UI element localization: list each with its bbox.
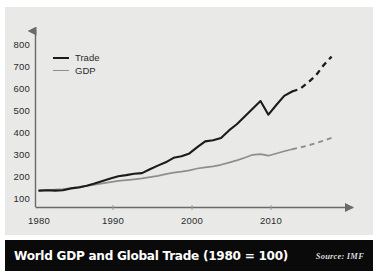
x-tick-label-2000: 2000 bbox=[175, 215, 209, 226]
legend-swatch-gdp-icon bbox=[53, 70, 69, 71]
y-tick-label-200: 200 bbox=[4, 171, 30, 182]
caption-bar: World GDP and Global Trade (1980 = 100) … bbox=[5, 240, 373, 271]
y-tick-label-400: 400 bbox=[4, 127, 30, 138]
series-line-trade bbox=[39, 92, 292, 191]
y-tick-label-600: 600 bbox=[4, 83, 30, 94]
y-tick-label-100: 100 bbox=[4, 193, 30, 204]
legend-item-trade: Trade bbox=[53, 51, 125, 64]
series-projection-gdp bbox=[292, 138, 332, 150]
chart-figure: 800 700 600 500 400 300 200 100 1980 199… bbox=[0, 0, 378, 278]
y-tick-label-500: 500 bbox=[4, 105, 30, 116]
legend-label-gdp: GDP bbox=[75, 65, 96, 76]
series-line-gdp bbox=[39, 149, 292, 190]
chart-panel: 800 700 600 500 400 300 200 100 1980 199… bbox=[5, 7, 373, 235]
chart-plot-area bbox=[5, 7, 373, 235]
legend-swatch-trade-icon bbox=[53, 57, 69, 59]
x-tick-label-1990: 1990 bbox=[96, 215, 130, 226]
chart-legend: Trade GDP bbox=[53, 51, 125, 77]
x-tick-label-2010: 2010 bbox=[254, 215, 288, 226]
chart-title: World GDP and Global Trade (1980 = 100) bbox=[14, 248, 288, 263]
chart-source-credit: Source: IMF bbox=[316, 251, 364, 261]
x-tick-label-1980: 1980 bbox=[22, 215, 56, 226]
series-projection-trade bbox=[292, 57, 332, 92]
legend-label-trade: Trade bbox=[75, 52, 99, 63]
y-tick-label-300: 300 bbox=[4, 149, 30, 160]
y-tick-label-700: 700 bbox=[4, 61, 30, 72]
y-tick-label-800: 800 bbox=[4, 39, 30, 50]
legend-item-gdp: GDP bbox=[53, 64, 125, 77]
